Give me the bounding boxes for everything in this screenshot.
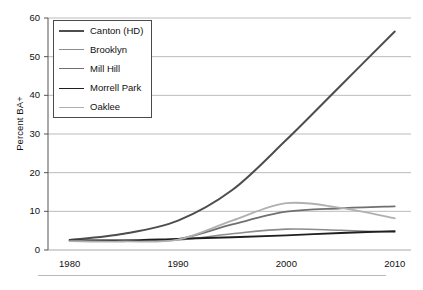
x-tick-label: 2010 xyxy=(372,259,418,269)
legend-item-label: Oaklee xyxy=(90,102,120,112)
y-tick-label: 40 xyxy=(14,90,40,100)
legend-item-label: Brooklyn xyxy=(90,45,127,55)
y-tick-label: 30 xyxy=(14,129,40,139)
legend-item-label: Mill Hill xyxy=(90,64,120,74)
legend-item-label: Canton (HD) xyxy=(90,26,143,36)
axis-lines xyxy=(44,18,48,250)
legend-line-swatch-icon xyxy=(59,88,84,89)
series-line-morrell-park xyxy=(70,231,395,240)
y-tick-label: 50 xyxy=(14,52,40,62)
legend-line-swatch-icon xyxy=(59,49,84,50)
legend-item[interactable]: Canton (HD) xyxy=(54,21,151,40)
x-tick-label: 1980 xyxy=(47,259,93,269)
legend-item-label: Morrell Park xyxy=(90,83,141,93)
legend-item[interactable]: Mill Hill xyxy=(54,59,151,78)
x-tick-label: 2000 xyxy=(263,259,309,269)
series-line-oaklee xyxy=(70,203,395,242)
y-tick-label: 60 xyxy=(14,13,40,23)
legend-line-swatch-icon xyxy=(59,107,84,108)
footer-rule xyxy=(38,275,386,276)
y-tick-label: 10 xyxy=(14,206,40,216)
legend-item[interactable]: Brooklyn xyxy=(54,40,151,59)
x-tick-label: 1990 xyxy=(155,259,201,269)
chart-legend: Canton (HD)BrooklynMill HillMorrell Park… xyxy=(53,20,152,118)
y-tick-label: 20 xyxy=(14,168,40,178)
legend-line-swatch-icon xyxy=(59,68,84,69)
y-tick-label: 0 xyxy=(14,245,40,255)
legend-line-swatch-icon xyxy=(59,30,84,32)
chart-figure: Percent BA+ 0102030405060 19801990200020… xyxy=(0,0,423,290)
legend-item[interactable]: Oaklee xyxy=(54,98,151,117)
legend-item[interactable]: Morrell Park xyxy=(54,79,151,98)
